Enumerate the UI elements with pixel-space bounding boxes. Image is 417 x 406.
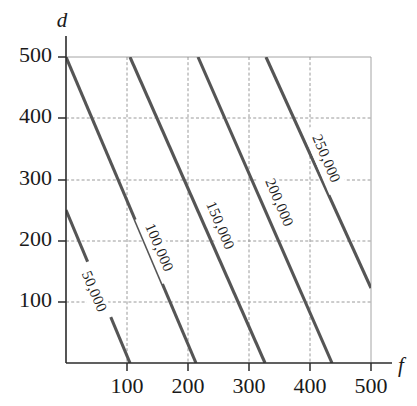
- contour-line-250000: [266, 57, 371, 288]
- contour-line-150000: [130, 57, 265, 363]
- plot-canvas: 50,000 100,000 150,000 200,000 250,000: [0, 0, 417, 406]
- contour-labels: 50,000 100,000 150,000 200,000 250,000: [79, 132, 344, 314]
- x-tick-label-500: 500: [355, 373, 388, 398]
- y-tick-label-200: 200: [19, 226, 52, 251]
- contour-label-haloes: [72, 123, 348, 324]
- y-tick-labels: 500 400 300 200 100: [19, 42, 52, 312]
- x-axis-title: f: [398, 353, 407, 377]
- y-axis-title: d: [57, 8, 68, 32]
- contour-plot-figure: 50,000 100,000 150,000 200,000 250,000: [0, 0, 417, 406]
- x-tick-label-100: 100: [111, 373, 144, 398]
- y-tick-label-300: 300: [19, 165, 52, 190]
- x-tick-label-200: 200: [172, 373, 205, 398]
- x-tick-label-400: 400: [294, 373, 327, 398]
- contour-line-100000: [66, 57, 196, 363]
- x-tick-labels: 100 200 300 400 500: [111, 373, 388, 398]
- y-tick-label-400: 400: [19, 103, 52, 128]
- y-tick-label-100: 100: [19, 287, 52, 312]
- axis-lines: [66, 36, 392, 363]
- x-tick-marks: [127, 363, 371, 371]
- y-tick-label-500: 500: [19, 42, 52, 67]
- y-tick-marks: [58, 57, 66, 302]
- x-tick-label-300: 300: [233, 373, 266, 398]
